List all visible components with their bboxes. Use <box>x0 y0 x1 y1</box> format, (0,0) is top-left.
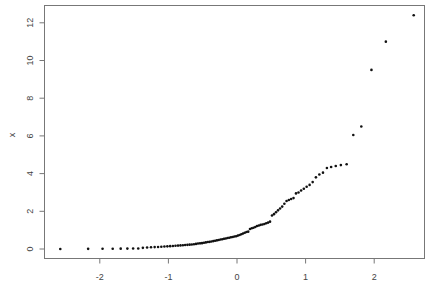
y-tick-label: 8 <box>25 96 35 101</box>
data-point <box>360 125 363 128</box>
data-point <box>132 247 135 250</box>
data-point <box>308 184 311 187</box>
data-point <box>269 220 272 223</box>
data-point <box>322 171 325 174</box>
data-point <box>59 248 62 251</box>
x-tick-label: 0 <box>234 272 239 282</box>
data-point <box>101 247 104 250</box>
y-axis-label: x <box>7 132 17 137</box>
data-point <box>412 14 415 17</box>
data-point <box>111 247 114 250</box>
data-point <box>126 247 129 250</box>
data-point <box>157 246 160 249</box>
qq-plot: 024681012 -2-1012 x <box>0 0 429 297</box>
data-point <box>275 211 278 214</box>
data-point <box>153 246 156 249</box>
data-point <box>283 202 286 205</box>
x-axis: -2-1012 <box>96 259 377 283</box>
y-tick-label: 6 <box>25 133 35 138</box>
data-point <box>163 245 166 248</box>
y-tick-label: 2 <box>25 209 35 214</box>
data-point <box>172 245 175 248</box>
data-point <box>87 248 90 251</box>
data-point <box>288 199 291 202</box>
data-point <box>142 247 145 250</box>
y-tick-label: 0 <box>25 246 35 251</box>
data-point <box>160 245 163 248</box>
data-point <box>334 165 337 168</box>
data-point <box>279 207 282 210</box>
x-tick-label: 1 <box>303 272 308 282</box>
data-point <box>345 163 348 166</box>
data-point <box>315 176 318 179</box>
data-point <box>247 230 250 233</box>
data-point <box>326 167 329 170</box>
data-point <box>182 244 185 247</box>
x-tick-label: -1 <box>164 272 172 282</box>
data-point <box>285 200 288 203</box>
data-point <box>305 186 308 189</box>
data-point <box>137 247 140 250</box>
data-point <box>119 247 122 250</box>
data-point <box>370 69 373 72</box>
data-point <box>340 164 343 167</box>
y-tick-label: 12 <box>25 18 35 28</box>
data-point <box>273 213 276 216</box>
data-point <box>166 245 169 248</box>
y-tick-label: 10 <box>25 55 35 65</box>
data-point <box>277 209 280 212</box>
data-point <box>385 40 388 43</box>
data-point <box>177 244 180 247</box>
data-point <box>297 191 300 194</box>
x-tick-label: 2 <box>372 272 377 282</box>
data-point <box>146 246 149 249</box>
data-point <box>150 246 153 249</box>
y-tick-label: 4 <box>25 171 35 176</box>
data-point <box>186 244 189 247</box>
y-axis: 024681012 <box>25 18 45 252</box>
data-point <box>311 181 314 184</box>
data-point <box>330 166 333 169</box>
data-point <box>300 189 303 192</box>
data-point <box>292 197 295 200</box>
plot-box <box>45 6 425 259</box>
data-point <box>303 187 306 190</box>
data-point <box>295 192 298 195</box>
data-point <box>184 244 187 247</box>
points <box>59 14 415 250</box>
data-point <box>290 198 293 201</box>
data-point <box>169 245 172 248</box>
data-point <box>179 244 182 247</box>
data-point <box>318 173 321 176</box>
data-point <box>281 205 284 208</box>
x-tick-label: -2 <box>96 272 104 282</box>
data-point <box>352 134 355 137</box>
data-point <box>174 245 177 248</box>
